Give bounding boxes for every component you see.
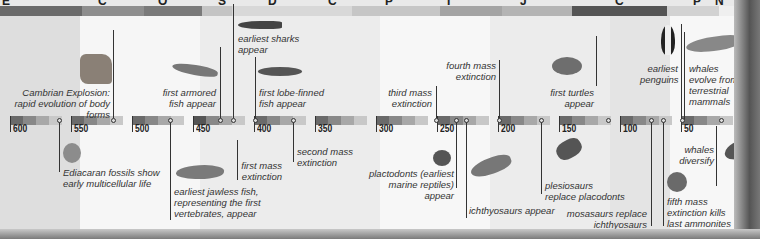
axis-tick: [376, 116, 377, 132]
header-bar: [502, 6, 572, 16]
period-letter: P: [385, 0, 393, 8]
placodont-image: [433, 150, 451, 166]
header-bar: [0, 6, 82, 16]
leader-line: [59, 120, 60, 172]
turtle-image: [552, 57, 582, 75]
axis-tick: [315, 116, 316, 132]
event-marker: [231, 118, 236, 123]
axis-tick-label: 500: [135, 123, 149, 134]
event-note-ediacaran: Ediacaran fossils show early multicellul…: [63, 167, 163, 189]
event-marker: [497, 118, 502, 123]
leader-line: [170, 120, 171, 220]
axis-tick-label: 200: [501, 123, 515, 134]
event-marker: [680, 118, 685, 123]
header-bar: [202, 6, 232, 16]
event-marker: [606, 118, 611, 123]
shark-image: [238, 21, 282, 29]
ediacaran-fossil-image: [63, 143, 81, 163]
event-note-placodonts: plactodonts (earliest marine reptiles) a…: [362, 168, 454, 201]
axis-tick-label: 50: [684, 123, 693, 134]
event-note-plesiosaurs: plesiosaurs replace placodonts: [545, 180, 625, 202]
event-note-mosasaurs: mosasaurs replace ichthyosaurs: [560, 208, 647, 230]
event-marker: [434, 118, 439, 123]
axis-tick-label: 250: [440, 123, 454, 134]
leader-line: [499, 60, 500, 118]
axis-tick-label: 450: [196, 123, 210, 134]
axis-tick: [620, 116, 621, 132]
event-note-fourth-extinction: fourth mass extinction: [440, 60, 496, 82]
leader-line: [233, 4, 234, 118]
lobe-finned-fish-image: [258, 67, 302, 76]
event-marker: [464, 118, 469, 123]
leader-line: [541, 120, 542, 194]
event-note-fifth-extinction: fifth mass extinction kills last ammonit…: [667, 196, 737, 229]
axis-tick-label: 100: [623, 123, 637, 134]
event-marker: [454, 118, 459, 123]
leader-line: [716, 126, 717, 186]
leader-line: [113, 30, 114, 118]
header-bar: [352, 6, 440, 16]
event-note-armored-fish: first armored fish appear: [160, 87, 216, 109]
axis-tick-label: 550: [74, 123, 88, 134]
period-letter: T: [445, 0, 452, 8]
leader-line: [663, 120, 664, 226]
event-marker: [218, 118, 223, 123]
event-note-penguins: earliest penguins: [640, 63, 678, 85]
leader-line: [220, 47, 221, 118]
event-marker: [291, 118, 296, 123]
period-letter: S: [218, 0, 226, 8]
penguin-image: [661, 25, 675, 55]
leader-line: [436, 86, 437, 118]
page-bottom-shadow: [0, 229, 760, 239]
event-note-whales-diversify: whales diversify: [674, 144, 714, 166]
axis-tick: [132, 116, 133, 132]
leader-line: [255, 57, 256, 118]
event-marker: [253, 118, 258, 123]
event-marker: [111, 118, 116, 123]
event-note-turtles: first turtles appear: [548, 87, 594, 109]
period-letter: O: [158, 0, 167, 8]
leader-line: [684, 32, 685, 120]
event-note-sharks: earliest sharks appear: [238, 33, 302, 55]
event-note-second-extinction: second mass extinction: [297, 146, 357, 168]
axis-tick-label: 350: [318, 123, 332, 134]
period-letter: J: [520, 0, 527, 8]
event-note-cambrian: Cambrian Explosion: rapid evolution of b…: [4, 87, 110, 120]
header-bar: [144, 6, 202, 16]
period-letter: D: [268, 0, 277, 8]
event-marker: [539, 118, 544, 123]
event-note-ichthyosaurs: ichthyosaurs appear: [469, 205, 559, 216]
page-edge-shadow: [734, 0, 760, 239]
event-note-jawless-fish: earliest jawless fish, representing the …: [174, 186, 272, 219]
ammonite-image: [667, 172, 687, 192]
period-letter: P: [693, 0, 701, 8]
event-note-lobe-finned: first lobe-finned fish appear: [259, 87, 331, 109]
axis-tick: [559, 116, 560, 132]
event-marker: [168, 118, 173, 123]
header-bar: [82, 6, 144, 16]
event-marker: [719, 118, 724, 123]
event-note-third-extinction: third mass extinction: [378, 87, 432, 109]
event-marker: [661, 118, 666, 123]
trilobite-fossil-image: [80, 54, 112, 84]
period-letter: C: [328, 0, 337, 8]
leader-line: [681, 24, 682, 120]
period-header: E C O S D C P T J C P N Q: [0, 0, 760, 16]
leader-line: [651, 120, 652, 226]
axis-tick-label: 300: [379, 123, 393, 134]
axis-tick: [193, 116, 194, 132]
axis-tick-label: 400: [257, 123, 271, 134]
period-letter: C: [615, 0, 624, 8]
period-letter: E: [2, 0, 10, 8]
period-letter: C: [98, 0, 107, 8]
leader-line: [456, 120, 457, 188]
axis-tick-label: 600: [13, 123, 27, 134]
jawless-fish-image: [176, 165, 224, 179]
period-letter: N: [715, 0, 724, 8]
event-marker: [649, 118, 654, 123]
leader-line: [293, 120, 294, 162]
event-note-first-extinction: first mass extinction: [238, 160, 282, 182]
leader-line: [466, 120, 467, 218]
leader-line: [596, 36, 597, 86]
axis-tick-label: 150: [562, 123, 576, 134]
